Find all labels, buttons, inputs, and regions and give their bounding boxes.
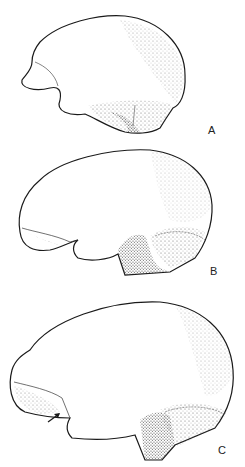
brain-panel-b bbox=[19, 150, 212, 275]
brain-illustration bbox=[0, 0, 245, 467]
panel-label-c: C bbox=[218, 444, 226, 456]
panel-label-b: B bbox=[210, 265, 217, 277]
brain-panel-a bbox=[22, 16, 185, 133]
brain-panel-c bbox=[10, 302, 233, 460]
panel-label-a: A bbox=[208, 124, 215, 136]
